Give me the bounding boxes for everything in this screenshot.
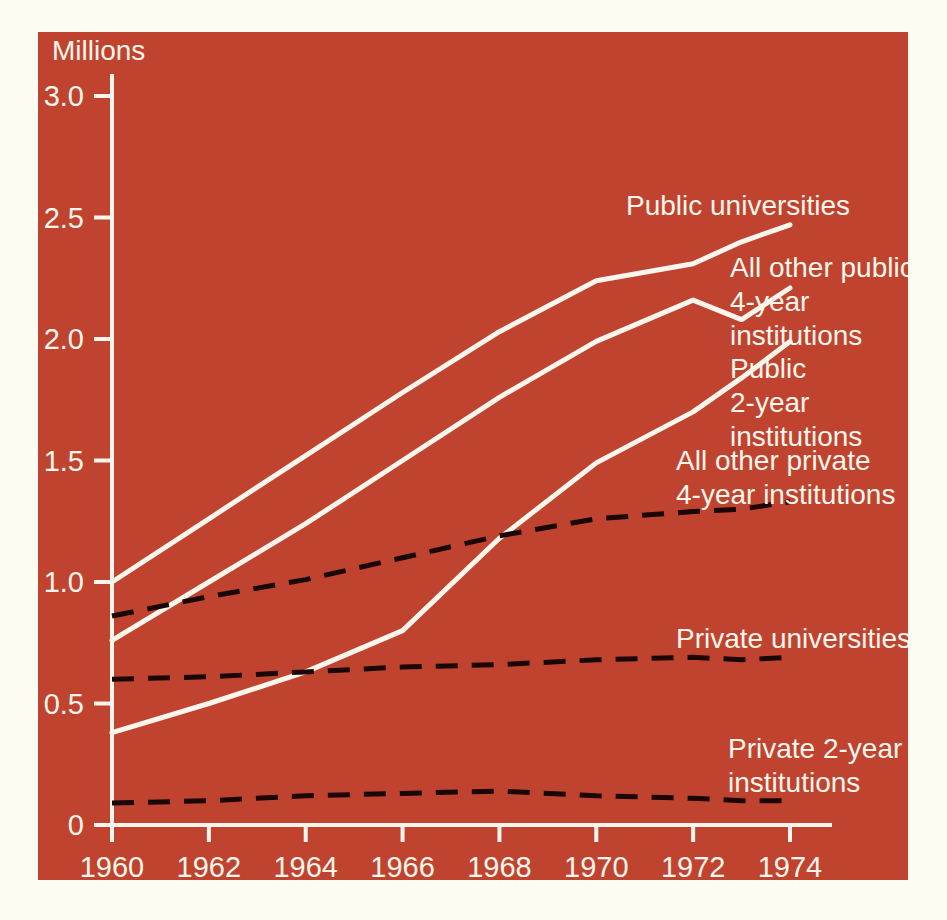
y-axis-tick-label: 0.5 [44,688,84,720]
series-line [112,502,790,616]
series-annotation-label: All other public4-yearinstitutions [730,252,914,351]
series-line [112,225,790,582]
x-axis-tick-label: 1964 [273,851,338,883]
y-axis-tick-label: 2.0 [44,323,84,355]
y-axis-tick-label: 2.5 [44,202,84,234]
x-axis-tick-label: 1972 [661,851,726,883]
y-axis-unit-label: Millions [52,35,145,66]
series-line [112,657,790,679]
series-annotation-label: Public2-yearinstitutions [730,353,862,452]
y-axis-tick-label: 0 [68,809,84,841]
chart-canvas: 00.51.01.52.02.53.0196019621964196619681… [0,0,947,920]
y-axis-tick-label: 1.5 [44,445,84,477]
x-axis-tick-label: 1966 [370,851,435,883]
series-annotation-label: Public universities [626,190,850,221]
x-axis-tick-label: 1962 [177,851,242,883]
x-axis-tick-label: 1968 [467,851,532,883]
series-annotation-label: All other private4-year institutions [676,445,895,510]
y-axis-tick-label: 1.0 [44,566,84,598]
series-annotation-label: Private universities [676,623,911,654]
chart-figure: 00.51.01.52.02.53.0196019621964196619681… [0,0,947,920]
series-line [112,791,790,803]
series-annotations: Public universitiesAll other public4-yea… [626,190,914,798]
series-annotation-label: Private 2-yearinstitutions [728,733,902,798]
x-axis-tick-label: 1974 [758,851,823,883]
x-axis-tick-label: 1970 [564,851,629,883]
x-axis-tick-label: 1960 [80,851,145,883]
y-axis-tick-label: 3.0 [44,80,84,112]
series-line [112,341,790,732]
series-lines [112,225,790,803]
